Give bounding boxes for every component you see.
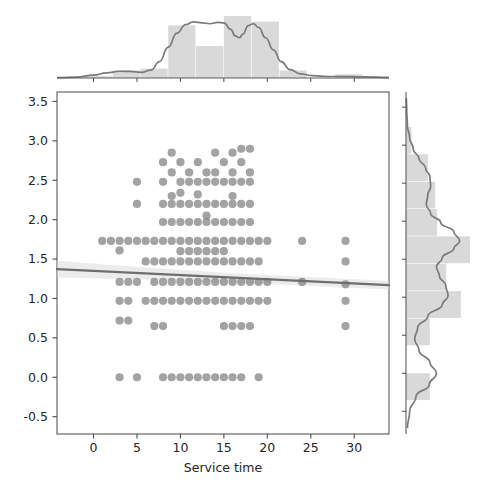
scatter-point: [228, 297, 236, 305]
marginal-x-bar: [196, 46, 223, 78]
scatter-point: [246, 200, 254, 208]
scatter-point: [228, 178, 236, 186]
scatter-point: [185, 297, 193, 305]
scatter-point: [237, 218, 245, 226]
scatter-point: [168, 218, 176, 226]
scatter-point: [246, 168, 254, 176]
scatter-point: [176, 200, 184, 208]
scatter-point: [341, 237, 349, 245]
scatter-point: [133, 278, 141, 286]
x-tick-label: 15: [216, 440, 232, 455]
scatter-point: [176, 257, 184, 265]
scatter-point: [185, 247, 193, 255]
scatter-point: [185, 178, 193, 186]
y-axis: -0.50.00.51.01.52.02.53.03.5: [24, 94, 57, 424]
scatter-point: [228, 322, 236, 330]
scatter-point: [220, 218, 228, 226]
scatter-point: [228, 192, 236, 200]
scatter-point: [220, 158, 228, 166]
scatter-point: [211, 178, 219, 186]
scatter-point: [168, 168, 176, 176]
scatter-point: [150, 322, 158, 330]
scatter-plot: -0.50.00.51.01.52.02.53.03.5051015202530…: [0, 86, 392, 486]
scatter-point: [211, 218, 219, 226]
scatter-point: [133, 200, 141, 208]
y-tick-label: 1.0: [28, 291, 48, 306]
marginal-y-plot: [398, 92, 478, 434]
scatter-point: [176, 178, 184, 186]
scatter-point: [228, 200, 236, 208]
scatter-point: [211, 237, 219, 245]
marginal-y-bar: [406, 209, 437, 236]
scatter-point: [220, 297, 228, 305]
scatter-point: [194, 247, 202, 255]
scatter-point: [150, 257, 158, 265]
y-tick-label: 3.5: [28, 94, 48, 109]
scatter-point: [194, 200, 202, 208]
y-tick-label: 2.0: [28, 212, 48, 227]
scatter-point: [194, 373, 202, 381]
scatter-point: [194, 218, 202, 226]
scatter-point: [211, 200, 219, 208]
scatter-point: [168, 297, 176, 305]
scatter-point: [194, 257, 202, 265]
x-tick-label: 20: [259, 440, 275, 455]
marginal-y-bar: [406, 373, 430, 400]
scatter-point: [176, 297, 184, 305]
scatter-point: [124, 237, 132, 245]
scatter-point: [255, 373, 263, 381]
scatter-point: [211, 297, 219, 305]
scatter-point: [142, 257, 150, 265]
scatter-point: [220, 247, 228, 255]
scatter-point: [98, 237, 106, 245]
scatter-point: [220, 322, 228, 330]
scatter-point: [228, 373, 236, 381]
scatter-point: [150, 297, 158, 305]
scatter-point: [194, 297, 202, 305]
scatter-point: [211, 257, 219, 265]
scatter-point: [211, 168, 219, 176]
scatter-point: [246, 145, 254, 153]
scatter-point: [202, 200, 210, 208]
x-tick-label: 30: [346, 440, 362, 455]
marginal-y-panel: [398, 92, 478, 434]
scatter-point: [263, 297, 271, 305]
scatter-point: [168, 278, 176, 286]
scatter-point: [341, 297, 349, 305]
scatter-point: [202, 168, 210, 176]
x-tick-label: 25: [303, 440, 319, 455]
scatter-point: [228, 257, 236, 265]
scatter-point: [124, 316, 132, 324]
scatter-point: [185, 218, 193, 226]
scatter-point: [133, 373, 141, 381]
scatter-point: [246, 257, 254, 265]
scatter-point: [228, 149, 236, 157]
scatter-point: [202, 218, 210, 226]
scatter-point: [246, 218, 254, 226]
scatter-point: [176, 247, 184, 255]
scatter-point: [168, 149, 176, 157]
scatter-point: [255, 297, 263, 305]
scatter-point: [263, 237, 271, 245]
y-tick-label: 1.5: [28, 251, 48, 266]
scatter-point: [159, 218, 167, 226]
marginal-x-bar: [168, 25, 195, 78]
scatter-point: [220, 278, 228, 286]
marginal-y-bar: [406, 154, 428, 181]
scatter-point: [185, 373, 193, 381]
y-tick-label: 2.5: [28, 173, 48, 188]
scatter-point: [168, 257, 176, 265]
scatter-point: [228, 278, 236, 286]
scatter-point: [159, 237, 167, 245]
scatter-point: [237, 178, 245, 186]
scatter-point: [246, 178, 254, 186]
scatter-point: [185, 278, 193, 286]
scatter-point: [194, 178, 202, 186]
scatter-point: [133, 237, 141, 245]
scatter-point: [142, 237, 150, 245]
scatter-point: [176, 278, 184, 286]
scatter-point: [107, 237, 115, 245]
scatter-point: [220, 373, 228, 381]
scatter-point: [220, 200, 228, 208]
scatter-point: [159, 297, 167, 305]
